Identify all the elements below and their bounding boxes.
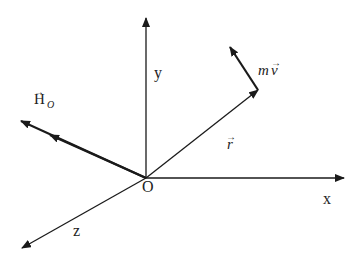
z-axis — [22, 178, 146, 248]
momentum-vector-mv — [230, 47, 258, 90]
svg-text:O: O — [47, 99, 54, 110]
position-vector-r — [146, 90, 258, 178]
svg-text:→: → — [226, 131, 236, 142]
angular-momentum-vector-ho — [21, 121, 146, 178]
diagram-canvas: y x z O r → m v → H → O — [0, 0, 360, 261]
svg-text:m: m — [258, 62, 269, 78]
svg-text:→: → — [271, 57, 281, 68]
origin-label: O — [142, 178, 154, 195]
x-axis-label: x — [323, 190, 331, 207]
z-axis-label: z — [73, 222, 80, 239]
y-axis-label: y — [154, 64, 162, 82]
svg-text:→: → — [34, 86, 44, 97]
r-label: r → — [226, 131, 236, 152]
mv-label: m v → — [258, 57, 281, 78]
ho-label: H → O — [34, 86, 54, 110]
